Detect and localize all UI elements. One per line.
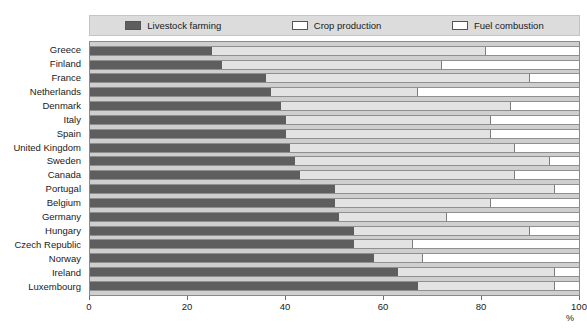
bar-segment-crop[interactable] — [335, 199, 491, 207]
bar-segment-crop[interactable] — [295, 157, 549, 165]
y-axis-label: Greece — [0, 45, 85, 55]
bar-segment-livestock[interactable] — [90, 102, 281, 110]
y-axis-label: Belgium — [0, 198, 85, 208]
bar-segment-fuel[interactable] — [491, 199, 579, 207]
bar-segment-crop[interactable] — [266, 74, 530, 82]
y-axis-label: France — [0, 73, 85, 83]
bar-segment-fuel[interactable] — [515, 171, 579, 179]
bar-segment-crop[interactable] — [339, 213, 447, 221]
bar-segment-crop[interactable] — [286, 116, 491, 124]
bar-segment-livestock[interactable] — [90, 47, 212, 55]
y-axis-label: Finland — [0, 59, 85, 69]
bar-segment-livestock[interactable] — [90, 74, 266, 82]
bar-row[interactable] — [90, 156, 579, 166]
y-axis-label: Denmark — [0, 101, 85, 111]
x-axis-tick — [579, 296, 580, 300]
bar-segment-fuel[interactable] — [530, 227, 579, 235]
x-axis-tick-label: 0 — [86, 301, 91, 312]
bar-row[interactable] — [90, 212, 579, 222]
bar-segment-livestock[interactable] — [90, 116, 286, 124]
bar-segment-crop[interactable] — [290, 144, 515, 152]
bar-segment-livestock[interactable] — [90, 282, 418, 290]
bar-rows — [90, 42, 579, 295]
bar-segment-livestock[interactable] — [90, 213, 339, 221]
bar-segment-livestock[interactable] — [90, 88, 271, 96]
x-axis-tick-label: 40 — [280, 301, 291, 312]
bar-row[interactable] — [90, 115, 579, 125]
bar-segment-livestock[interactable] — [90, 171, 300, 179]
bar-segment-crop[interactable] — [281, 102, 511, 110]
bar-segment-fuel[interactable] — [555, 185, 579, 193]
bar-segment-fuel[interactable] — [550, 157, 579, 165]
bar-segment-livestock[interactable] — [90, 185, 335, 193]
bar-segment-livestock[interactable] — [90, 199, 335, 207]
bar-segment-crop[interactable] — [286, 130, 491, 138]
bar-segment-crop[interactable] — [398, 268, 554, 276]
bar-segment-fuel[interactable] — [486, 47, 579, 55]
x-axis-tick — [481, 296, 482, 300]
y-axis-label: Spain — [0, 129, 85, 139]
bar-segment-crop[interactable] — [271, 88, 418, 96]
bar-row[interactable] — [90, 101, 579, 111]
bar-segment-fuel[interactable] — [423, 254, 579, 262]
bar-row[interactable] — [90, 73, 579, 83]
bar-segment-livestock[interactable] — [90, 157, 295, 165]
bar-segment-fuel[interactable] — [555, 268, 579, 276]
y-axis-label: Germany — [0, 212, 85, 222]
chart-legend: Livestock farmingCrop productionFuel com… — [89, 15, 580, 36]
legend-item-2[interactable]: Fuel combustion — [452, 21, 544, 31]
x-axis-tick-label: 20 — [182, 301, 193, 312]
legend-label: Crop production — [314, 21, 382, 31]
bar-segment-livestock[interactable] — [90, 254, 374, 262]
x-axis-tick — [89, 296, 90, 300]
bar-row[interactable] — [90, 129, 579, 139]
bar-segment-crop[interactable] — [374, 254, 423, 262]
bar-segment-fuel[interactable] — [530, 74, 579, 82]
bar-segment-crop[interactable] — [354, 240, 413, 248]
bar-segment-fuel[interactable] — [413, 240, 579, 248]
bar-segment-livestock[interactable] — [90, 227, 354, 235]
bar-segment-fuel[interactable] — [447, 213, 579, 221]
x-axis-unit-label: % — [566, 313, 574, 323]
legend-label: Livestock farming — [147, 21, 221, 31]
bar-segment-fuel[interactable] — [491, 130, 579, 138]
x-axis-tick-label: 60 — [378, 301, 389, 312]
swatch-filled-dark-icon — [125, 21, 141, 30]
bar-segment-fuel[interactable] — [555, 282, 579, 290]
bar-row[interactable] — [90, 184, 579, 194]
legend-item-1[interactable]: Crop production — [292, 21, 382, 31]
bar-segment-fuel[interactable] — [442, 61, 579, 69]
bar-row[interactable] — [90, 267, 579, 277]
bar-segment-livestock[interactable] — [90, 130, 286, 138]
bar-segment-livestock[interactable] — [90, 144, 290, 152]
y-axis-label: Ireland — [0, 268, 85, 278]
bar-segment-crop[interactable] — [300, 171, 515, 179]
bar-row[interactable] — [90, 253, 579, 263]
bar-row[interactable] — [90, 226, 579, 236]
bar-segment-crop[interactable] — [335, 185, 555, 193]
bar-row[interactable] — [90, 60, 579, 70]
bar-segment-fuel[interactable] — [511, 102, 579, 110]
bar-segment-crop[interactable] — [222, 61, 442, 69]
bar-segment-crop[interactable] — [418, 282, 555, 290]
plot-area — [89, 41, 580, 296]
bar-segment-livestock[interactable] — [90, 240, 354, 248]
bar-row[interactable] — [90, 143, 579, 153]
bar-row[interactable] — [90, 46, 579, 56]
bar-segment-livestock[interactable] — [90, 61, 222, 69]
bar-row[interactable] — [90, 87, 579, 97]
bar-segment-livestock[interactable] — [90, 268, 398, 276]
y-axis-label: Canada — [0, 170, 85, 180]
bar-segment-crop[interactable] — [212, 47, 486, 55]
bar-segment-fuel[interactable] — [418, 88, 579, 96]
swatch-outline-icon — [452, 21, 468, 30]
bar-segment-fuel[interactable] — [515, 144, 579, 152]
bar-row[interactable] — [90, 170, 579, 180]
legend-item-0[interactable]: Livestock farming — [125, 21, 221, 31]
bar-segment-crop[interactable] — [354, 227, 530, 235]
bar-segment-fuel[interactable] — [491, 116, 579, 124]
bar-row[interactable] — [90, 239, 579, 249]
bar-row[interactable] — [90, 281, 579, 291]
bar-row[interactable] — [90, 198, 579, 208]
